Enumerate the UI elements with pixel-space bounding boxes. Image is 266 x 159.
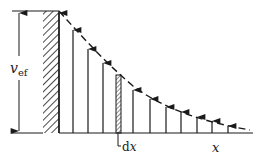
x-axis-label: x	[212, 140, 220, 155]
dx-leader	[118, 133, 121, 146]
velocity-profile-diagram: vef dx x	[0, 0, 266, 159]
velocity-arrows	[59, 13, 228, 133]
v-ef-label: vef	[10, 60, 29, 78]
hatched-wall	[43, 11, 59, 133]
dx-strip	[116, 75, 121, 133]
dx-label: dx	[122, 140, 137, 154]
